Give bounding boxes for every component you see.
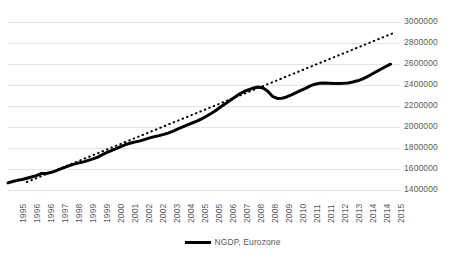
x-tick-label: 2009: [284, 204, 294, 223]
x-tick-label: 2007: [242, 204, 252, 223]
y-tick-label: 3000000: [404, 17, 438, 26]
x-tick-label: 2002: [158, 204, 168, 223]
plot-area: [8, 22, 400, 190]
legend-item-label: NGDP, Eurozone: [215, 237, 281, 247]
x-axis: 1995199619961997199819991999200020012002…: [8, 192, 400, 226]
trendline-series: [27, 32, 395, 182]
legend-line-swatch: [185, 241, 211, 244]
x-tick-label: 2012: [340, 204, 350, 223]
y-axis: 3000000280000026000002400000220000020000…: [404, 22, 464, 190]
y-tick-label: 2800000: [404, 38, 438, 47]
x-tick-label: 2011: [312, 204, 322, 223]
x-tick-label: 1999: [102, 204, 112, 223]
y-tick-label: 1800000: [404, 143, 438, 152]
y-tick-label: 1400000: [404, 185, 438, 194]
series-layer: [8, 32, 395, 183]
x-tick-label: 1997: [60, 204, 70, 223]
x-tick-label: 2015: [396, 204, 406, 223]
chart-container: 3000000280000026000002400000220000020000…: [0, 0, 465, 257]
x-tick-label: 2001: [130, 204, 140, 223]
x-tick-label: 2005: [214, 204, 224, 223]
x-tick-label: 1998: [74, 204, 84, 223]
x-tick-label: 2008: [270, 204, 280, 223]
chart-canvas: [8, 22, 400, 190]
legend-item-ngdp-eurozone: NGDP, Eurozone: [185, 237, 281, 247]
x-tick-label: 2004: [186, 204, 196, 223]
x-tick-label: 2002: [144, 204, 154, 223]
x-tick-label: 2014: [368, 204, 378, 223]
y-tick-label: 2200000: [404, 101, 438, 110]
x-tick-label: 2005: [200, 204, 210, 223]
ngdp-eurozone-series: [8, 64, 391, 183]
y-tick-label: 2000000: [404, 122, 438, 131]
x-tick-label: 1996: [46, 204, 56, 223]
x-tick-label: 2011: [326, 204, 336, 223]
y-tick-label: 2400000: [404, 80, 438, 89]
x-tick-label: 2008: [256, 204, 266, 223]
y-tick-label: 1600000: [404, 164, 438, 173]
x-tick-label: 2013: [354, 204, 364, 223]
x-tick-label: 1995: [18, 204, 28, 223]
y-tick-label: 2600000: [404, 59, 438, 68]
x-tick-label: 2000: [116, 204, 126, 223]
x-tick-label: 2006: [228, 204, 238, 223]
x-tick-label: 1996: [32, 204, 42, 223]
x-tick-label: 2003: [172, 204, 182, 223]
x-tick-label: 1999: [88, 204, 98, 223]
x-tick-label: 2010: [298, 204, 308, 223]
chart-legend: NGDP, Eurozone: [0, 234, 465, 250]
x-tick-label: 2014: [382, 204, 392, 223]
